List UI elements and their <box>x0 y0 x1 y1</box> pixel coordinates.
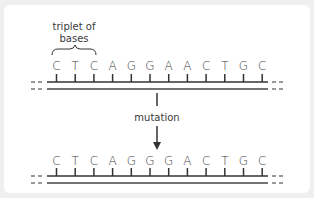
base-letter: C <box>52 59 60 73</box>
dna-mutation-diagram: triplet of bases CTCAGGAACTGC mutation C… <box>0 0 314 198</box>
base-letter: A <box>108 154 116 168</box>
base-letter: G <box>145 59 154 73</box>
base-letter: A <box>165 59 173 73</box>
base-letter: C <box>52 154 60 168</box>
base-letter: G <box>239 59 248 73</box>
arrow-down-icon <box>153 142 161 150</box>
base-letter: C <box>202 154 210 168</box>
base-letter: C <box>258 154 266 168</box>
triplet-brace-icon <box>52 45 96 55</box>
base-letter: T <box>221 59 229 73</box>
base-letter: A <box>183 59 191 73</box>
triplet-label-line1: triplet of <box>53 21 96 32</box>
original-dna-strand: CTCAGGAACTGC <box>31 59 286 89</box>
triplet-label-line2: bases <box>59 33 88 44</box>
base-letter: C <box>90 59 98 73</box>
mutation-label: mutation <box>134 112 179 123</box>
base-letter: G <box>145 154 154 168</box>
base-letter: A <box>183 154 191 168</box>
mutated-dna-strand: CTCAGGGACTGC <box>31 154 286 183</box>
base-letter: G <box>164 154 173 168</box>
base-letter: G <box>239 154 248 168</box>
base-letter: T <box>221 154 229 168</box>
base-letter: C <box>258 59 266 73</box>
base-letter: T <box>72 154 80 168</box>
base-letter: G <box>127 59 136 73</box>
base-letter: A <box>108 59 116 73</box>
base-letter: T <box>72 59 80 73</box>
base-letter: G <box>127 154 136 168</box>
base-letter: C <box>90 154 98 168</box>
base-letter: C <box>202 59 210 73</box>
